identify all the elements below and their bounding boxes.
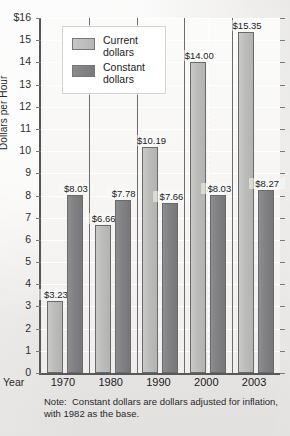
y-tick-right [280,40,285,41]
y-tick-right [280,284,285,285]
legend-label-current-dollars: Current dollars [103,35,138,58]
bar-value-label: $10.19 [134,135,170,146]
y-tick-right [280,85,285,86]
y-tick-right [280,196,285,197]
bar-chart-figure: Dollars per Hour $1615141312111098765432… [0,0,290,436]
bar-current-1990 [142,147,158,373]
y-tick-right [280,62,285,63]
y-tick-label: 8 [0,189,31,201]
axis-break-dashed-line [208,18,209,373]
y-tick-right [280,107,285,108]
y-tick-label: 1 [0,344,31,356]
bar-constant-2003 [258,190,274,373]
group-separator [232,18,233,373]
y-tick-right [280,218,285,219]
legend-label-current-line1: Current [103,34,138,46]
legend-swatch-current-dollars [72,38,95,50]
y-tick-left [36,373,41,374]
legend-item-constant-dollars: Constant dollars [72,62,145,85]
y-tick-right [280,306,285,307]
x-tick-label-2000: 2000 [182,376,230,388]
y-tick-label: $16 [0,11,31,23]
y-tick-label: 2 [0,322,31,334]
x-axis: Year 19701980199020002003 [0,375,290,391]
note-line1: Constant dollars are dollars adjusted fo… [72,396,278,407]
chart-note: Note: Constant dollars are dollars adjus… [44,396,282,419]
y-tick-right [280,240,285,241]
x-tick-label-2003: 2003 [230,376,278,388]
legend-swatch-constant-dollars [72,65,95,77]
group-separator [184,18,185,373]
legend-label-constant-line1: Constant [103,61,145,73]
y-tick-label: 15 [0,33,31,45]
y-tick-right [280,262,285,263]
y-tick-right [280,18,285,19]
legend-label-constant-dollars: Constant dollars [103,62,145,85]
y-tick-label: 9 [0,166,31,178]
bar-constant-2000 [210,195,226,373]
bar-value-label: $8.27 [249,178,285,189]
note-lead: Note: [44,396,72,407]
bar-constant-1980 [115,200,131,373]
bar-current-1980 [95,225,111,373]
y-tick-right [280,129,285,130]
y-tick-label: 14 [0,55,31,67]
y-tick-label: 12 [0,100,31,112]
y-tick-right [280,151,285,152]
bar-value-label: $15.35 [229,20,265,31]
bar-group: $15.35$8.27 [232,18,280,373]
legend-label-current-line2: dollars [103,46,134,58]
y-tick-label: 13 [0,78,31,90]
y-tick-label: 5 [0,255,31,267]
legend-item-current-dollars: Current dollars [72,35,138,58]
bar-constant-1970 [67,195,83,373]
y-tick-right [280,373,285,374]
bar-value-label: $14.00 [181,50,217,61]
x-tick-label-1980: 1980 [87,376,135,388]
bar-constant-1990 [162,203,178,373]
chart-legend: Current dollars Constant dollars [62,26,166,94]
note-line2: with 1982 as the base. [44,408,139,419]
y-tick-label: 10 [0,144,31,156]
y-tick-label: 4 [0,277,31,289]
x-axis-title: Year [3,376,24,388]
bar-current-2000 [190,62,206,373]
y-tick-label: 7 [0,211,31,223]
x-tick-label-1990: 1990 [135,376,183,388]
y-tick-label: 6 [0,233,31,245]
y-tick-right [280,329,285,330]
x-tick-label-1970: 1970 [39,376,87,388]
bar-current-1970 [47,301,63,373]
plot-area: $3.23$8.03$6.66$7.78$10.19$7.66$14.00$8.… [39,18,280,375]
legend-label-constant-line2: dollars [103,73,134,85]
y-tick-right [280,351,285,352]
bar-current-2003 [238,32,254,373]
y-tick-label: 3 [0,299,31,311]
y-tick-right [280,173,285,174]
y-tick-label: 11 [0,122,31,134]
